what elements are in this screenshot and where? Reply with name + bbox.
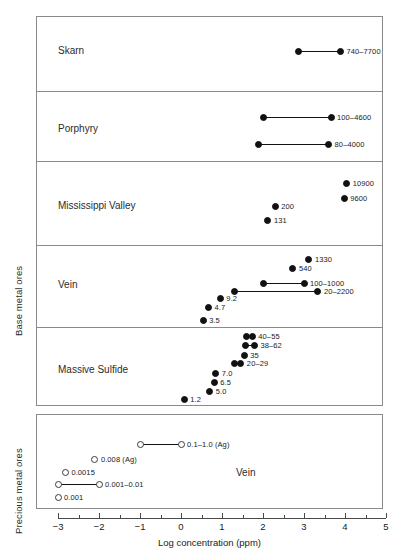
data-point-mississippi[interactable] [272, 203, 279, 210]
data-point-label: 20–29 [247, 359, 268, 368]
data-point-precious[interactable] [62, 469, 69, 476]
range-connector [234, 291, 318, 292]
range-connector [140, 444, 181, 445]
category-label-mississippi-valley: Mississippi Valley [58, 200, 136, 211]
category-label-porphyry: Porphyry [58, 123, 98, 134]
data-point-label: 0.001–0.01 [105, 480, 144, 489]
x-tick-major [222, 513, 223, 518]
data-point-massive[interactable] [241, 352, 248, 359]
category-label-precious-vein: Vein [236, 467, 255, 478]
x-tick-major [345, 513, 346, 518]
data-point-precious[interactable] [137, 441, 144, 448]
divider-vein-massive-sulfide [36, 327, 383, 328]
data-point-skarn[interactable] [295, 48, 302, 55]
x-tick-label: 3 [301, 521, 306, 532]
x-tick-label: 2 [260, 521, 265, 532]
divider-porphyry-mississippi [36, 161, 383, 162]
data-point-label: 9.2 [226, 294, 237, 303]
data-point-label: 740–7700 [346, 47, 380, 56]
data-point-label: 0.008 (Ag) [101, 455, 137, 464]
x-tick-minor [284, 515, 285, 518]
data-point-mississippi[interactable] [341, 195, 348, 202]
data-point-precious[interactable] [96, 481, 103, 488]
data-point-porphyry[interactable] [328, 114, 335, 121]
data-point-precious[interactable] [55, 481, 62, 488]
data-point-label: 100–4600 [337, 113, 371, 122]
data-point-massive[interactable] [212, 370, 219, 377]
data-point-massive[interactable] [249, 333, 256, 340]
x-tick-label: −1 [135, 521, 146, 532]
data-point-precious[interactable] [55, 494, 62, 501]
x-tick-major [304, 513, 305, 518]
figure-canvas: Base metal ores Precious metal ores Skar… [0, 0, 405, 559]
data-point-vein[interactable] [260, 280, 267, 287]
data-point-massive[interactable] [242, 342, 249, 349]
x-tick-major [140, 513, 141, 518]
x-tick-minor [79, 515, 80, 518]
x-tick-major [99, 513, 100, 518]
data-point-label: 5.0 [216, 387, 227, 396]
data-point-massive[interactable] [206, 388, 213, 395]
x-tick-label: 1 [219, 521, 224, 532]
category-label-skarn: Skarn [58, 45, 84, 56]
data-point-precious[interactable] [91, 456, 98, 463]
x-tick-label: −3 [53, 521, 64, 532]
data-point-label: 7.0 [222, 369, 233, 378]
x-tick-minor [202, 515, 203, 518]
data-point-label: 0.001 [64, 493, 83, 502]
data-point-label: 1330 [315, 255, 332, 264]
data-point-label: 80–4000 [335, 140, 365, 149]
data-point-vein[interactable] [289, 265, 296, 272]
divider-mississippi-vein [36, 245, 383, 246]
data-point-porphyry[interactable] [325, 141, 332, 148]
category-label-massive-sulfide: Massive Sulfide [58, 364, 128, 375]
x-axis-line [58, 518, 386, 519]
x-tick-major [263, 513, 264, 518]
data-point-vein[interactable] [205, 304, 212, 311]
range-connector [263, 283, 304, 284]
data-point-vein[interactable] [305, 256, 312, 263]
data-point-vein[interactable] [217, 295, 224, 302]
range-connector [259, 144, 329, 145]
data-point-precious[interactable] [178, 441, 185, 448]
x-tick-minor [243, 515, 244, 518]
data-point-label: 10900 [353, 179, 374, 188]
data-point-vein[interactable] [200, 317, 207, 324]
data-point-label: 38–62 [260, 341, 281, 350]
x-tick-minor [366, 515, 367, 518]
range-connector [58, 484, 99, 485]
data-point-porphyry[interactable] [255, 141, 262, 148]
range-connector [299, 51, 341, 52]
data-point-porphyry[interactable] [260, 114, 267, 121]
data-point-label: 1.2 [190, 395, 201, 404]
data-point-massive[interactable] [237, 360, 244, 367]
data-point-label: 540 [299, 264, 312, 273]
panel-base-metal-ores [36, 16, 383, 406]
data-point-mississippi[interactable] [264, 217, 271, 224]
category-label-vein: Vein [58, 279, 77, 290]
data-point-label: 4.7 [214, 303, 225, 312]
data-point-label: 20–2200 [324, 287, 354, 296]
data-point-massive[interactable] [251, 342, 258, 349]
y-axis-group-label-base-metal-ores: Base metal ores [13, 266, 24, 336]
data-point-label: 40–55 [258, 332, 279, 341]
x-tick-label: 4 [342, 521, 347, 532]
x-axis-title: Log concentration (ppm) [36, 537, 383, 548]
data-point-label: 3.5 [209, 316, 220, 325]
data-point-mississippi[interactable] [343, 180, 350, 187]
data-point-label: 6.5 [220, 378, 231, 387]
x-tick-major [58, 513, 59, 518]
x-tick-minor [325, 515, 326, 518]
data-point-label: 0.1–1.0 (Ag) [187, 440, 229, 449]
data-point-massive[interactable] [211, 379, 218, 386]
divider-skarn-porphyry [36, 91, 383, 92]
x-tick-minor [120, 515, 121, 518]
data-point-skarn[interactable] [337, 48, 344, 55]
y-axis-group-label-precious-metal-ores: Precious metal ores [13, 448, 24, 534]
data-point-label: 0.0015 [71, 468, 95, 477]
x-tick-minor [161, 515, 162, 518]
data-point-vein[interactable] [314, 288, 321, 295]
data-point-massive[interactable] [181, 396, 188, 403]
panel-precious-metal-ores [36, 414, 383, 509]
data-point-vein[interactable] [301, 280, 308, 287]
